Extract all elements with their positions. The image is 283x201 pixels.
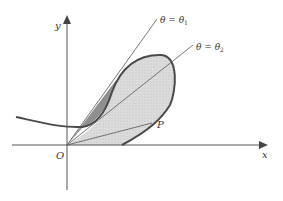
point-p-label: P — [156, 119, 164, 130]
loop-region — [67, 55, 175, 145]
x-axis-arrow-icon — [259, 141, 268, 149]
origin-label: O — [56, 150, 64, 161]
polar-area-diagram: y x O P θ = θ1 θ = θ2 — [0, 0, 283, 201]
theta2-label: θ = θ2 — [196, 42, 224, 53]
x-axis-label: x — [262, 149, 268, 160]
theta1-label: θ = θ1 — [160, 15, 188, 26]
y-axis-label: y — [54, 20, 61, 31]
y-axis-arrow-icon — [63, 15, 71, 24]
